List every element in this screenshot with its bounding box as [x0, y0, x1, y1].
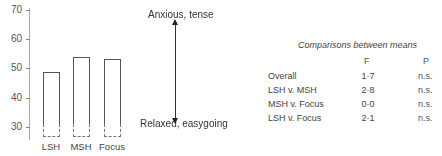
y-axis-line: [29, 8, 30, 140]
table-title: Comparisons between means: [298, 40, 417, 50]
y-tick-mark: [26, 127, 30, 128]
y-tick-label: 40: [0, 92, 22, 103]
table-row-label: LSH v. MSH: [268, 85, 317, 95]
table-cell-f: 2·8: [360, 85, 376, 95]
y-tick-mark: [26, 98, 30, 99]
table-row-label: Overall: [268, 71, 297, 81]
scale-bottom-label: Relaxed, easygoing: [140, 118, 228, 129]
table-cell-f: 0·0: [360, 99, 376, 109]
table-cell-f: 1·7: [360, 71, 376, 81]
table-cell-f: 2·1: [360, 113, 376, 123]
y-tick-mark: [26, 10, 30, 11]
bar-lsh-break: [43, 124, 60, 137]
y-tick-label: 30: [0, 121, 22, 132]
table-cell-p: n.s.: [418, 113, 433, 123]
double-arrow-line: [175, 24, 176, 120]
scale-top-label: Anxious, tense: [148, 9, 214, 20]
bar-focus: [104, 59, 121, 124]
bar-msh-break: [73, 124, 90, 137]
bar-focus-break: [104, 124, 121, 137]
bar-chart: 70 60 50 40 30 LSH MSH Focus: [0, 0, 135, 156]
bar-lsh: [43, 72, 60, 124]
y-tick-mark: [26, 68, 30, 69]
y-tick-label: 50: [0, 62, 22, 73]
column-header-p: P: [423, 56, 429, 66]
table-row-label: LSH v. Focus: [268, 113, 321, 123]
category-label-focus: Focus: [94, 141, 130, 152]
scale-annotation: Anxious, tense Relaxed, easygoing: [135, 0, 255, 156]
bar-msh: [73, 57, 90, 124]
column-header-f: F: [364, 56, 370, 66]
y-tick-label: 60: [0, 33, 22, 44]
table-cell-p: n.s.: [418, 99, 433, 109]
y-tick-label: 70: [0, 4, 22, 15]
table-cell-p: n.s.: [418, 85, 433, 95]
table-row-label: MSH v. Focus: [268, 99, 324, 109]
arrow-down-icon: [172, 118, 178, 124]
table-cell-p: n.s.: [418, 71, 433, 81]
y-tick-mark: [26, 39, 30, 40]
